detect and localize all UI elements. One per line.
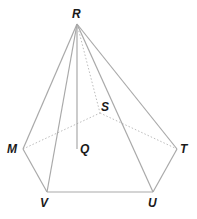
label-R: R [72, 7, 81, 21]
edge-RV [47, 24, 77, 192]
edge-RU [77, 24, 153, 192]
label-M: M [7, 142, 18, 156]
edge-UT [153, 149, 177, 192]
edge-RM [23, 24, 77, 149]
label-S: S [101, 100, 109, 114]
edge-RT [77, 24, 177, 149]
edge-ST [100, 113, 177, 149]
pyramid-diagram: R S M Q T V U [0, 0, 197, 219]
label-V: V [40, 196, 49, 210]
label-Q: Q [80, 142, 90, 156]
label-T: T [180, 142, 189, 156]
label-U: U [148, 196, 157, 210]
edge-MV [23, 149, 47, 192]
